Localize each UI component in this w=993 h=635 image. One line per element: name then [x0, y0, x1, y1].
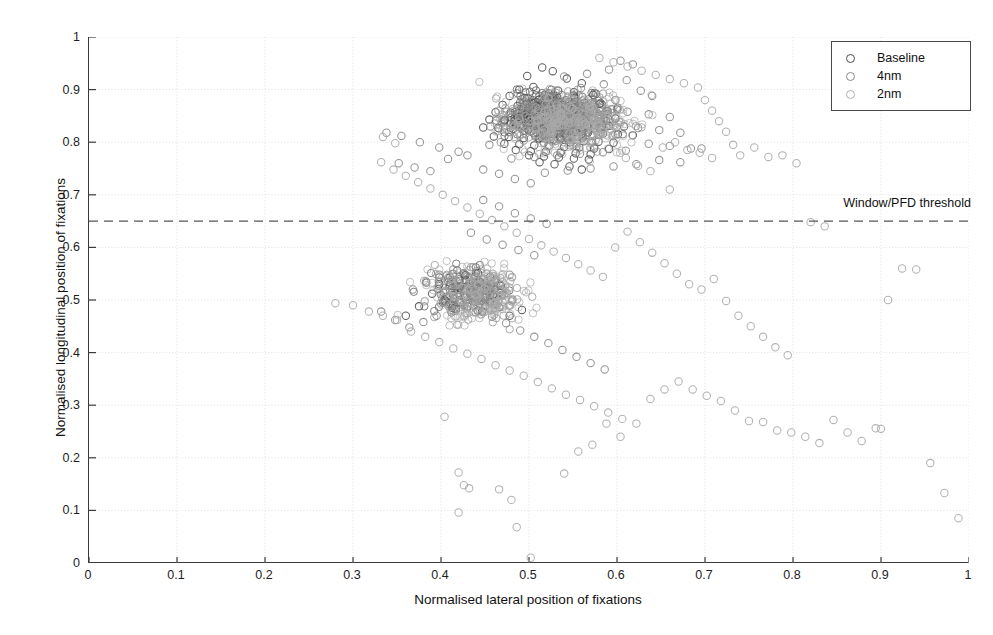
- data-point: [478, 355, 485, 362]
- data-point: [722, 128, 729, 135]
- data-point: [551, 161, 558, 168]
- data-point: [765, 153, 772, 160]
- data-point: [411, 164, 418, 171]
- data-point: [513, 229, 520, 236]
- data-point: [436, 338, 443, 345]
- data-point: [450, 345, 457, 352]
- data-point: [599, 273, 606, 280]
- data-point: [406, 278, 413, 285]
- series-4nm: [377, 57, 705, 373]
- data-point: [476, 78, 483, 85]
- data-point: [587, 267, 594, 274]
- legend-item[interactable]: 2nm: [832, 85, 970, 103]
- data-point: [617, 97, 624, 104]
- window-pfd-threshold-label: Window/PFD threshold: [843, 196, 971, 210]
- data-point: [402, 172, 409, 179]
- data-point: [480, 166, 487, 173]
- data-point: [443, 257, 450, 264]
- x-tick-label: 0.8: [783, 568, 800, 582]
- data-point: [638, 67, 645, 74]
- data-point: [508, 155, 515, 162]
- data-point: [559, 346, 566, 353]
- data-point: [656, 156, 663, 163]
- data-point: [492, 362, 499, 369]
- data-point: [538, 242, 545, 249]
- data-point: [745, 417, 752, 424]
- data-point: [398, 132, 405, 139]
- data-point: [708, 107, 715, 114]
- y-tick-label: 1: [40, 30, 80, 44]
- data-point: [495, 486, 502, 493]
- data-point: [436, 144, 443, 151]
- data-point: [717, 397, 724, 404]
- data-point: [409, 286, 416, 293]
- x-tick-label: 0.2: [255, 568, 272, 582]
- data-point: [513, 524, 520, 531]
- x-tick-label: 0.9: [871, 568, 888, 582]
- data-point: [645, 140, 652, 147]
- data-point: [731, 407, 738, 414]
- data-point: [927, 459, 934, 466]
- data-point: [821, 223, 828, 230]
- data-point: [779, 152, 786, 159]
- legend-item[interactable]: 4nm: [832, 67, 970, 85]
- data-point: [685, 281, 692, 288]
- data-point: [441, 413, 448, 420]
- y-axis-label: Normalised longitudinal position of fixa…: [53, 98, 68, 518]
- data-point: [379, 312, 386, 319]
- data-point: [508, 496, 515, 503]
- data-point: [548, 385, 555, 392]
- data-point: [666, 142, 673, 149]
- data-point: [488, 216, 495, 223]
- data-point: [610, 163, 617, 170]
- legend-label: 4nm: [877, 70, 901, 83]
- data-point: [589, 441, 596, 448]
- data-point: [759, 418, 766, 425]
- data-point: [511, 210, 518, 217]
- data-point: [759, 333, 766, 340]
- data-point: [517, 327, 524, 334]
- data-point: [564, 167, 571, 174]
- data-point: [673, 270, 680, 277]
- data-point: [647, 395, 654, 402]
- data-point: [802, 433, 809, 440]
- data-point: [427, 167, 434, 174]
- data-point: [402, 312, 409, 319]
- data-point: [659, 144, 666, 151]
- data-point: [464, 152, 471, 159]
- data-point: [506, 367, 513, 374]
- data-point: [500, 145, 507, 152]
- data-point: [476, 210, 483, 217]
- data-point: [561, 470, 568, 477]
- data-point: [636, 238, 643, 245]
- data-point: [407, 328, 414, 335]
- data-point: [549, 67, 556, 74]
- data-point: [617, 57, 624, 64]
- data-point: [605, 409, 612, 416]
- data-point: [844, 429, 851, 436]
- data-point: [596, 54, 603, 61]
- data-point: [633, 420, 640, 427]
- data-point: [332, 299, 339, 306]
- x-tick-label: 0.5: [519, 568, 536, 582]
- data-point: [527, 554, 534, 561]
- data-point: [566, 163, 573, 170]
- data-point: [455, 509, 462, 516]
- data-point: [652, 71, 659, 78]
- data-point: [483, 236, 490, 243]
- data-point: [467, 229, 474, 236]
- data-point: [587, 359, 594, 366]
- legend-label: Baseline: [877, 52, 925, 65]
- scatter-plot-figure: 00.10.20.30.40.50.60.70.80.91 00.10.20.3…: [0, 0, 993, 635]
- data-point: [534, 378, 541, 385]
- data-point: [490, 133, 497, 140]
- data-point: [747, 323, 754, 330]
- data-point: [545, 339, 552, 346]
- data-point: [527, 180, 534, 187]
- data-point: [941, 489, 948, 496]
- legend-item[interactable]: Baseline: [832, 49, 970, 67]
- data-point: [622, 154, 629, 161]
- data-point: [522, 289, 529, 296]
- legend-marker-icon: [846, 72, 855, 81]
- data-point: [737, 152, 744, 159]
